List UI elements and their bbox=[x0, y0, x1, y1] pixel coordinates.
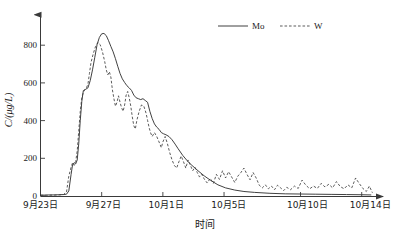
legend-label-mo: Mo bbox=[252, 21, 265, 31]
legend-label-w: W bbox=[314, 21, 323, 31]
x-axis-title: 时间 bbox=[195, 218, 215, 230]
x-tick-label-1: 9月27日 bbox=[86, 200, 121, 210]
y-tick-label-4: 800 bbox=[24, 40, 38, 50]
y-axis-title: C/(μg/L) bbox=[3, 92, 15, 127]
chart-legend: Mo W bbox=[218, 21, 323, 31]
y-tick-label-3: 600 bbox=[24, 78, 38, 88]
x-tick-label-2: 10月1日 bbox=[149, 200, 184, 210]
y-tick-label-2: 400 bbox=[24, 116, 38, 126]
chart-figure: 0 200 400 600 800 9月23日 9月27日 10月1日 10月5… bbox=[0, 0, 395, 235]
series-line-w bbox=[41, 42, 373, 195]
x-tick-label-3: 10月5日 bbox=[211, 200, 246, 210]
y-tick-labels: 0 200 400 600 800 bbox=[24, 40, 38, 201]
y-tick-label-1: 200 bbox=[24, 153, 38, 163]
line-chart-svg: 0 200 400 600 800 9月23日 9月27日 10月1日 10月5… bbox=[0, 0, 395, 235]
x-tick-labels: 9月23日 9月27日 10月1日 10月5日 10月10日 10月14日 bbox=[23, 200, 391, 210]
x-tick-label-0: 9月23日 bbox=[23, 200, 58, 210]
x-tick-label-5: 10月14日 bbox=[350, 200, 391, 210]
x-tick-label-4: 10月10日 bbox=[287, 200, 328, 210]
y-tick-marks bbox=[41, 45, 46, 196]
series-line-mo bbox=[41, 33, 371, 195]
